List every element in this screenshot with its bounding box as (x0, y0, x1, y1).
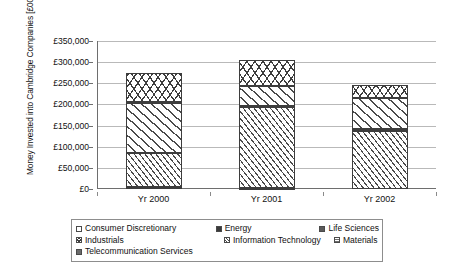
y-tick-mark (89, 41, 93, 42)
legend-label: Energy (225, 223, 252, 234)
legend-label: Materials (343, 235, 377, 246)
y-tick-label: £150,000 (53, 121, 89, 130)
y-tick-mark (89, 147, 93, 148)
legend-swatch-icon (76, 249, 82, 255)
legend-label: Telecommunication Services (85, 246, 193, 257)
legend-swatch-icon (76, 226, 82, 232)
chart-legend: Consumer DiscretionaryEnergyLife Science… (71, 219, 383, 262)
x-axis-tick-labels: Yr 2000Yr 2001Yr 2002 (97, 192, 436, 208)
bar-segment (239, 86, 295, 105)
bar-segment (126, 102, 182, 104)
y-tick-label: £200,000 (53, 100, 89, 109)
legend-swatch-icon (216, 226, 222, 232)
bar-segment (126, 73, 182, 102)
bar-segment (239, 60, 295, 86)
legend-item[interactable]: Information Technology (224, 235, 334, 246)
legend-row: Telecommunication Services (76, 246, 379, 258)
bar-stack (239, 60, 295, 189)
y-tick-mark (89, 104, 93, 105)
legend-row: Consumer DiscretionaryEnergyLife Science… (76, 223, 379, 235)
legend-label: Industrials (85, 235, 124, 246)
legend-item[interactable]: Industrials (76, 235, 224, 246)
legend-label: Consumer Discretionary (85, 223, 176, 234)
legend-item[interactable]: Life Sciences (319, 223, 379, 234)
legend-label: Life Sciences (328, 223, 379, 234)
bar-segment (352, 131, 408, 189)
y-tick-mark (89, 126, 93, 127)
y-tick-label: £300,000 (53, 58, 89, 67)
stacked-bar-chart: Money Invested into Cambridge Companies … (0, 0, 454, 270)
legend-swatch-icon (224, 237, 230, 243)
bar-segment (352, 85, 408, 97)
bar-stack (126, 73, 182, 189)
legend-item[interactable]: Materials (334, 235, 377, 246)
x-tick-mark (97, 192, 98, 196)
y-tick-label: £100,000 (53, 142, 89, 151)
bar-segment (126, 103, 182, 153)
x-tick-label: Yr 2002 (364, 194, 396, 204)
bar-segment (126, 153, 182, 187)
y-tick-label: £250,000 (53, 79, 89, 88)
legend-swatch-icon (334, 237, 340, 243)
legend-item[interactable]: Consumer Discretionary (76, 223, 216, 234)
legend-item[interactable]: Energy (216, 223, 320, 234)
bar-segment (239, 106, 295, 108)
legend-swatch-icon (76, 237, 82, 243)
y-tick-mark (89, 168, 93, 169)
x-tick-mark (323, 192, 324, 196)
x-tick-mark (210, 192, 211, 196)
x-tick-label: Yr 2000 (138, 194, 170, 204)
plot-area (97, 41, 436, 189)
y-tick-mark (89, 83, 93, 84)
y-tick-label: £0 (79, 185, 89, 194)
legend-row: IndustrialsInformation TechnologyMateria… (76, 235, 379, 247)
bar-segment (239, 107, 295, 188)
x-tick-label: Yr 2001 (251, 194, 283, 204)
y-tick-mark (89, 62, 93, 63)
y-tick-mark (89, 189, 93, 190)
legend-label: Information Technology (233, 235, 321, 246)
legend-item[interactable]: Telecommunication Services (76, 246, 224, 257)
y-tick-label: £50,000 (58, 163, 89, 172)
bar-segment (239, 188, 295, 190)
bar-segment (126, 187, 182, 189)
x-tick-mark (436, 192, 437, 196)
y-tick-label: £350,000 (53, 37, 89, 46)
legend-swatch-icon (319, 226, 325, 232)
bar-segment (352, 129, 408, 131)
bar-stack (352, 85, 408, 189)
y-axis-tick-labels: £0£50,000£100,000£150,000£200,000£250,00… (30, 41, 93, 189)
bar-segment (352, 98, 408, 129)
